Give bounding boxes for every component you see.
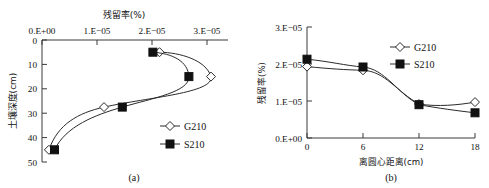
chart-b-xtick-label-1: 6 <box>361 142 366 152</box>
chart-a-series-s210-markers <box>51 48 193 154</box>
chart-panel-a: 残留率(%) 0.E+00 1.E−05 2.E−05 3.E−05 0 10 … <box>0 0 245 188</box>
chart-b-ytick-label-3: 3.E−05 <box>275 23 302 33</box>
chart-a-s210-marker-3 <box>51 146 59 154</box>
chart-a-ytick-label-2: 20 <box>28 84 38 94</box>
figure-container: 残留率(%) 0.E+00 1.E−05 2.E−05 3.E−05 0 10 … <box>0 0 489 188</box>
chart-a-caption: (a) <box>128 172 139 184</box>
chart-a-y-axis-title: 土壤深度(cm) <box>7 73 18 130</box>
chart-a-legend-marker-g210 <box>166 122 175 131</box>
chart-a-legend-label-s210: S210 <box>184 139 205 150</box>
chart-a-series-s210-line <box>55 52 189 150</box>
chart-a-g210-marker-2 <box>100 103 109 112</box>
chart-a-ytick-label-3: 30 <box>28 109 38 119</box>
chart-a-legend: G210 S210 <box>160 121 206 150</box>
chart-b-legend-marker-g210 <box>396 43 405 52</box>
chart-a-legend-marker-s210 <box>166 140 174 148</box>
chart-b-legend-marker-s210 <box>396 60 404 68</box>
chart-b-s210-marker-0 <box>303 55 311 63</box>
chart-a-s210-marker-2 <box>118 103 126 111</box>
chart-b-ytick-label-0: 0.E+00 <box>275 134 302 144</box>
chart-b-xtick-label-0: 0 <box>305 142 310 152</box>
chart-a-xtick-label-0: 0.E+00 <box>29 26 56 36</box>
chart-b-ytick-label-1: 1.E−05 <box>275 97 302 107</box>
chart-a-s210-marker-0 <box>149 48 157 56</box>
chart-b-legend: G210 S210 <box>390 42 436 70</box>
chart-a-xtick-label-2: 2.E−05 <box>139 26 166 36</box>
chart-b-s210-marker-3 <box>471 109 479 117</box>
chart-b-series-g210-markers <box>303 62 480 108</box>
chart-a-ytick-label-1: 10 <box>28 60 38 70</box>
chart-a-g210-marker-1 <box>207 72 216 81</box>
chart-b-caption: (b) <box>385 172 397 184</box>
chart-a-series-g210-line <box>49 52 211 150</box>
chart-a-legend-label-g210: G210 <box>184 121 206 132</box>
chart-b-x-axis-title: 离圆心距离(cm) <box>359 156 424 167</box>
chart-b-svg: 3.E−05 2.E−05 1.E−05 0.E+00 0 6 12 18 残留… <box>245 0 489 188</box>
chart-a-xtick-label-1: 1.E−05 <box>84 26 111 36</box>
chart-a-ytick-label-0: 0 <box>32 36 37 46</box>
chart-a-ytick-label-5: 50 <box>28 158 38 168</box>
chart-panel-b: 3.E−05 2.E−05 1.E−05 0.E+00 0 6 12 18 残留… <box>245 0 489 188</box>
chart-b-series-g210-line <box>307 67 475 106</box>
chart-a-xtick-label-3: 3.E−05 <box>194 26 221 36</box>
chart-b-legend-label-s210: S210 <box>414 59 435 70</box>
chart-a-svg: 残留率(%) 0.E+00 1.E−05 2.E−05 3.E−05 0 10 … <box>0 0 245 188</box>
chart-b-legend-label-g210: G210 <box>414 42 436 53</box>
chart-b-xtick-label-3: 18 <box>470 142 480 152</box>
chart-b-s210-marker-2 <box>415 101 423 109</box>
chart-b-ytick-label-2: 2.E−05 <box>275 60 302 70</box>
chart-a-x-axis-title: 残留率(%) <box>103 9 146 20</box>
chart-a-s210-marker-1 <box>185 73 193 81</box>
chart-b-xtick-label-2: 12 <box>414 142 424 152</box>
chart-b-s210-marker-1 <box>359 63 367 71</box>
chart-b-series-s210-line <box>307 59 475 113</box>
chart-a-ytick-label-4: 40 <box>28 133 38 143</box>
chart-b-g210-marker-3 <box>471 98 480 107</box>
chart-b-y-axis-title: 残留率(%) <box>256 62 267 104</box>
